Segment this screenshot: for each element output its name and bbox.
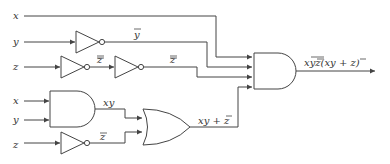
label-ybar: y <box>133 29 140 40</box>
not-gate-z2 <box>115 56 144 78</box>
wire-zbar2 <box>144 67 252 77</box>
not-gate-z1 <box>61 56 90 78</box>
and-gate-xy <box>50 91 95 127</box>
logic-circuit-diagram: x y z y z z <box>0 0 390 164</box>
input-label-z-bottom: z <box>12 139 19 150</box>
input-label-z-top: z <box>12 61 19 72</box>
label-or-output: xy + z <box>198 115 230 126</box>
and-gate-final <box>254 53 296 89</box>
wire-xy <box>95 109 142 118</box>
not-gate-z-bottom <box>61 132 90 154</box>
input-label-y-top: y <box>12 36 19 47</box>
input-label-x-bottom: x <box>13 95 19 106</box>
input-label-y-bottom: y <box>12 114 19 125</box>
label-final-output: xyz(xy + z) <box>304 57 360 68</box>
label-xy: xy <box>103 97 115 108</box>
not-gate-y <box>76 31 105 53</box>
input-label-x-top: x <box>13 10 19 21</box>
or-gate <box>143 109 190 145</box>
wire-zbar-bottom <box>90 132 142 143</box>
